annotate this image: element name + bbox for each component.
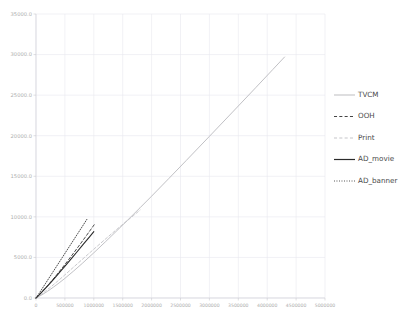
legend-label-print: Print [358,133,375,142]
y-tick-label: 35000.0 [11,11,32,17]
x-tick-label: 2000000 [141,303,162,308]
x-tick-label: 5000000 [315,303,336,308]
x-tick-label: 500000 [56,303,74,308]
x-tick-label: 0 [35,303,38,308]
legend-label-ad_banner: AD_banner [358,176,398,185]
x-tick-label: 4000000 [257,303,278,308]
x-tick-label: 2500000 [170,303,191,308]
y-tick-label: 20000.0 [11,133,32,139]
y-tick-label: 30000.0 [11,51,32,57]
chart-figure: 0500000100000015000002000000250000030000… [0,0,414,322]
y-tick-label: 25000.0 [11,92,32,98]
y-tick-label: 5000.0 [14,254,32,260]
legend-label-tvcm: TVCM [357,90,379,99]
y-tick-label: 0.0 [24,295,32,301]
legend-label-ad_movie: AD_movie [358,154,395,163]
y-tick-label: 10000.0 [11,214,32,220]
x-tick-label: 3500000 [228,303,249,308]
y-tick-label: 15000.0 [11,173,32,179]
x-tick-label: 3000000 [199,303,220,308]
x-tick-label: 1000000 [84,303,105,308]
x-tick-label: 1500000 [112,303,133,308]
x-tick-label: 4500000 [286,303,307,308]
legend-label-ooh: OOH [358,111,375,120]
line-chart-svg: 0500000100000015000002000000250000030000… [0,0,414,322]
